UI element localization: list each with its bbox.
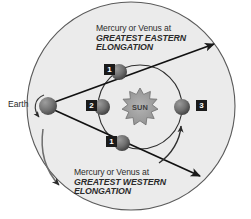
eastern-elongation-label: Mercury or Venus at GREATEST EASTERN ELO… xyxy=(96,24,186,53)
elongation-diagram: SUN Earth Mercury or Venus at GREATEST E… xyxy=(0,0,251,219)
western-elongation-label: Mercury or Venus at GREATEST WESTERN ELO… xyxy=(74,168,166,197)
sun-label: SUN xyxy=(132,103,148,112)
marker-1-lower: 1 xyxy=(106,136,117,147)
earth-label: Earth xyxy=(8,100,29,110)
planet-superior-conjunction xyxy=(174,99,190,115)
eastern-elongation-line3: ELONGATION xyxy=(96,43,186,53)
marker-3: 3 xyxy=(196,100,207,111)
marker-2: 2 xyxy=(86,100,97,111)
earth-sphere xyxy=(39,97,57,115)
marker-1-upper: 1 xyxy=(104,64,115,75)
western-elongation-line3: ELONGATION xyxy=(74,187,166,197)
